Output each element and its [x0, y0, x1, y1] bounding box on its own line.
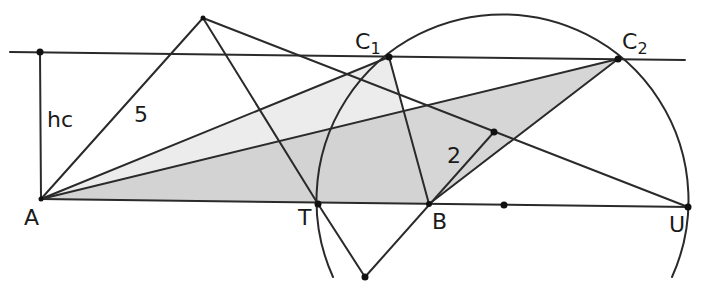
label-a: A — [24, 205, 39, 230]
point-c2 — [615, 56, 622, 63]
geometry-diagram: A hc 5 T B U 2 C1 C2 — [0, 0, 706, 301]
label-c2: C2 — [622, 29, 648, 58]
label-side-2: 2 — [447, 143, 461, 168]
point-u — [685, 204, 692, 211]
label-c2-sub: 2 — [637, 39, 647, 58]
label-b: B — [432, 209, 447, 234]
point-q — [362, 274, 369, 281]
label-t: T — [297, 205, 312, 230]
point-h — [37, 49, 44, 56]
label-c1: C1 — [355, 29, 381, 58]
point-b — [426, 201, 432, 207]
point-p — [201, 16, 206, 21]
parallel-line — [10, 52, 685, 60]
label-u: U — [669, 212, 685, 237]
point-c1 — [386, 54, 393, 61]
label-side-5: 5 — [134, 102, 148, 127]
height-hc-segment — [40, 52, 41, 199]
point-r — [491, 129, 498, 136]
label-c2-main: C — [622, 29, 637, 54]
segment-t-q — [318, 204, 365, 277]
point-a — [39, 197, 44, 202]
diagram-canvas: A hc 5 T B U 2 C1 C2 — [0, 0, 706, 301]
point-t — [315, 201, 322, 208]
point-m — [501, 202, 508, 209]
label-hc: hc — [47, 107, 73, 132]
label-c1-main: C — [355, 29, 370, 54]
label-c1-sub: 1 — [370, 39, 380, 58]
